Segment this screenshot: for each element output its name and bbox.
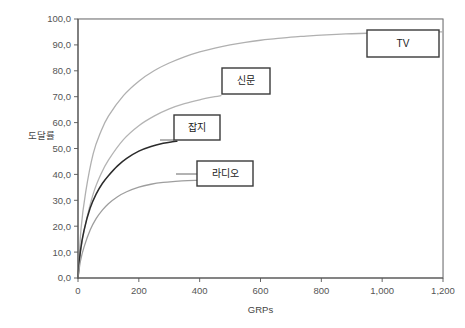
x-tick-label: 1,000 [370,285,394,296]
y-tick-label: 60,0 [53,117,72,128]
x-axis-title: GRPs [248,304,274,315]
plot-area-frame [78,19,443,278]
y-tick-label: 90,0 [53,39,72,50]
y-tick-label: 30,0 [53,195,72,206]
y-tick-label: 80,0 [53,65,72,76]
y-tick-label: 40,0 [53,169,72,180]
callout-TV[interactable]: TV [367,30,439,57]
x-tick-label: 400 [192,285,208,296]
callout-잡지[interactable]: 잡지 [174,115,220,140]
x-tick-label: 600 [253,285,269,296]
chart-canvas: 0,010,020,030,040,050,060,070,080,090,01… [0,0,465,328]
y-tick-label: 0,0 [58,272,71,283]
y-tick-label: 50,0 [53,143,72,154]
y-tick-label: 20,0 [53,221,72,232]
callout-label: 라디오 [212,168,239,179]
y-tick-label: 10,0 [53,247,72,258]
callout-신문[interactable]: 신문 [222,68,270,94]
callout-label: 신문 [237,75,255,86]
y-tick-label: 100,0 [47,13,71,24]
callout-label: TV [397,38,410,49]
reach-curve-chart: 0,010,020,030,040,050,060,070,080,090,01… [0,0,465,328]
callout-label: 잡지 [188,122,206,133]
y-tick-label: 70,0 [53,91,72,102]
x-tick-label: 1,200 [431,285,455,296]
x-tick-label: 200 [131,285,147,296]
callout-라디오[interactable]: 라디오 [197,161,253,186]
y-axis-title: 도달률 [28,130,55,141]
x-tick-label: 0 [75,285,80,296]
x-tick-label: 800 [313,285,329,296]
